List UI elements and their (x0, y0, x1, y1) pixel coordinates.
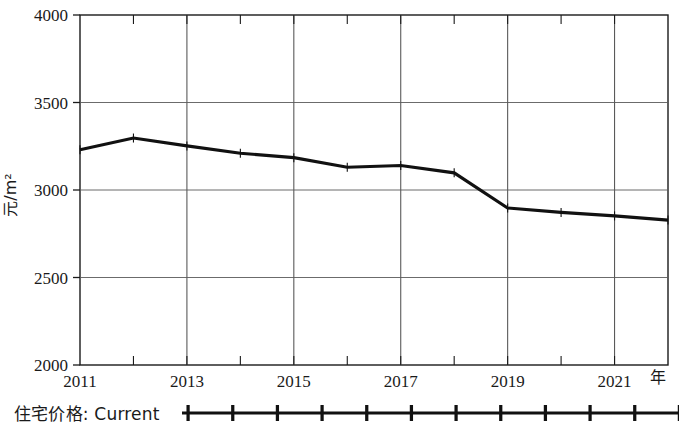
y-tick-label: 4000 (34, 6, 68, 25)
y-tick-label: 3000 (34, 181, 68, 200)
legend-sample-svg (182, 402, 679, 424)
chart-legend: 住宅价格: Current (0, 392, 679, 433)
x-tick-label: 2015 (277, 372, 311, 390)
y-axis-tick-labels: 20002500300035004000 (34, 6, 68, 375)
plot-area-wrapper: 20002500300035004000 2011201320152017201… (0, 0, 679, 390)
chart-figure: 20002500300035004000 2011201320152017201… (0, 0, 679, 433)
y-axis-ticks (73, 15, 80, 365)
x-tick-label: 2019 (491, 372, 525, 390)
y-tick-label: 2500 (34, 269, 68, 288)
x-axis-title: 年 (650, 368, 666, 387)
legend-line-sample (182, 402, 679, 424)
x-axis-tick-labels: 201120132015201720192021 (63, 372, 631, 390)
x-tick-label: 2011 (63, 372, 96, 390)
y-axis-title: 元/m² (1, 173, 20, 216)
legend-label: 住宅价格: Current (0, 400, 160, 425)
x-tick-label: 2013 (170, 372, 204, 390)
x-tick-label: 2017 (384, 372, 419, 390)
line-chart-svg: 20002500300035004000 2011201320152017201… (0, 0, 679, 390)
y-tick-label: 3500 (34, 94, 68, 113)
x-tick-label: 2021 (598, 372, 632, 390)
